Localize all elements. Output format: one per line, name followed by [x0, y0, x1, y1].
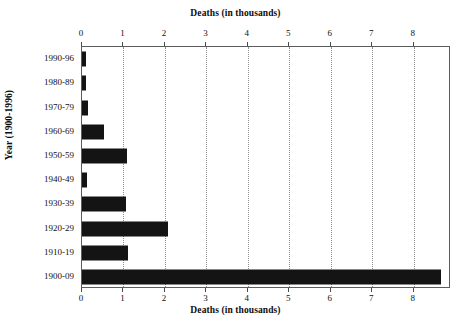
top-axis-title: Deaths (in thousands) — [0, 8, 471, 18]
x-tick-label-top: 0 — [71, 28, 91, 38]
x-tick-label-bottom: 5 — [278, 293, 298, 303]
gridline — [289, 47, 290, 287]
x-tick-bottom — [122, 288, 123, 292]
y-axis-category-label: 1920-29 — [9, 223, 81, 233]
x-tick-label-bottom: 6 — [320, 293, 340, 303]
y-axis-category-label: 1910-19 — [9, 247, 81, 257]
y-axis-category-label: 1990-96 — [9, 53, 81, 63]
gridline — [248, 47, 249, 287]
gridline — [414, 47, 415, 287]
y-axis-category-label: 1980-89 — [9, 77, 81, 87]
bar — [82, 173, 87, 188]
x-tick-label-bottom: 7 — [361, 293, 381, 303]
bar — [82, 221, 168, 236]
y-axis-category-label: 1970-79 — [9, 102, 81, 112]
bar — [82, 100, 88, 115]
x-tick-label-top: 5 — [278, 28, 298, 38]
bottom-axis-title: Deaths (in thousands) — [0, 305, 471, 315]
x-tick-bottom — [81, 288, 82, 292]
plot-area — [81, 46, 450, 288]
x-tick-label-top: 1 — [112, 28, 132, 38]
x-tick-label-top: 6 — [320, 28, 340, 38]
x-tick-label-bottom: 0 — [71, 293, 91, 303]
bar — [82, 245, 128, 260]
bar — [82, 148, 127, 163]
bar — [82, 269, 441, 284]
gridline — [165, 47, 166, 287]
x-tick-bottom — [371, 288, 372, 292]
x-tick-bottom — [247, 288, 248, 292]
bar — [82, 76, 86, 91]
x-tick-label-top: 2 — [154, 28, 174, 38]
x-tick-label-top: 3 — [195, 28, 215, 38]
gridline — [372, 47, 373, 287]
y-axis-category-label: 1950-59 — [9, 150, 81, 160]
bar — [82, 197, 126, 212]
gridline — [331, 47, 332, 287]
bar-chart: Deaths (in thousands) Deaths (in thousan… — [0, 0, 471, 323]
y-axis-category-label: 1900-09 — [9, 271, 81, 281]
x-tick-label-bottom: 1 — [112, 293, 132, 303]
x-tick-label-top: 4 — [237, 28, 257, 38]
x-tick-label-bottom: 8 — [403, 293, 423, 303]
y-axis-category-label: 1960-69 — [9, 126, 81, 136]
x-tick-bottom — [413, 288, 414, 292]
gridline — [206, 47, 207, 287]
x-tick-label-bottom: 2 — [154, 293, 174, 303]
x-tick-label-bottom: 4 — [237, 293, 257, 303]
x-tick-bottom — [205, 288, 206, 292]
x-tick-bottom — [330, 288, 331, 292]
y-axis-category-label: 1940-49 — [9, 174, 81, 184]
bar — [82, 124, 104, 139]
x-tick-bottom — [288, 288, 289, 292]
bar — [82, 52, 86, 67]
x-tick-label-top: 8 — [403, 28, 423, 38]
x-tick-bottom — [164, 288, 165, 292]
y-axis-category-labels: 1990-961980-891970-791960-691950-591940-… — [0, 46, 81, 288]
x-tick-label-bottom: 3 — [195, 293, 215, 303]
x-tick-label-top: 7 — [361, 28, 381, 38]
y-axis-category-label: 1930-39 — [9, 198, 81, 208]
